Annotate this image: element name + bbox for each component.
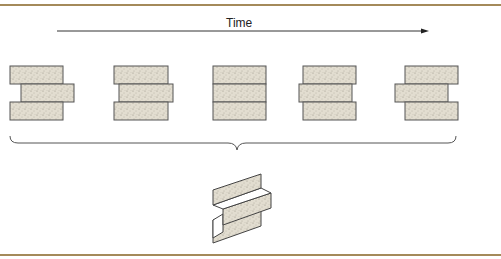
deformation-diagram [0,0,501,259]
z-fold-sheet-figure [213,174,271,243]
time-arrow [57,29,429,34]
grouping-brace [10,136,456,150]
stage-5-blocks [395,66,458,120]
stage-4-blocks [299,66,356,120]
stage-1-blocks [10,66,74,120]
stage-3-blocks [213,66,266,120]
stage-2-blocks [114,66,173,120]
